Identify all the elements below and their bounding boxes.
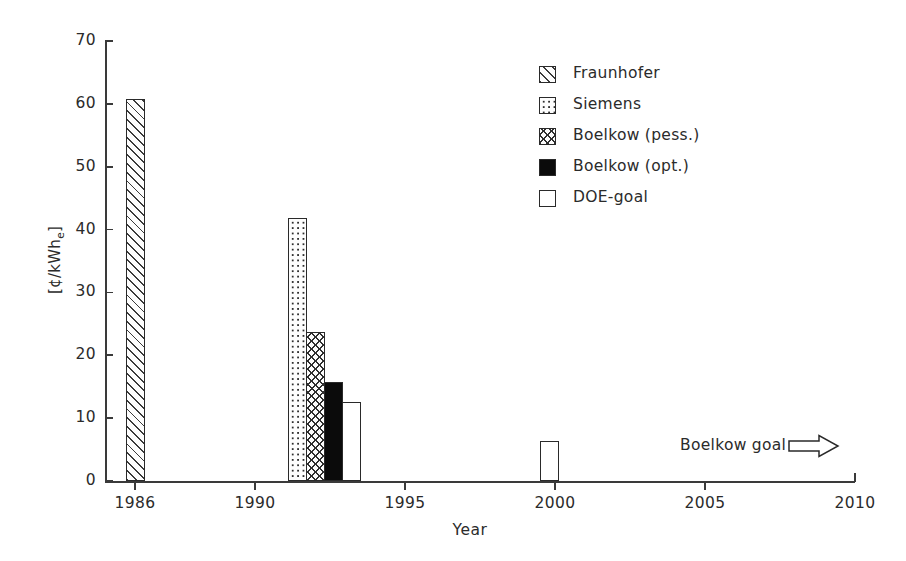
chart-canvas: 010203040506070 198619901995200020052010… — [0, 0, 906, 561]
x-tick-label: 2010 — [815, 494, 895, 512]
legend-label: DOE-goal — [573, 188, 648, 206]
bar-doe-goal-1993.2 — [342, 402, 361, 481]
legend-swatch-icon — [539, 97, 556, 114]
x-tick-label: 2000 — [515, 494, 595, 512]
legend-swatch-icon — [539, 66, 556, 83]
x-tick-mark — [554, 482, 556, 490]
y-axis-line — [105, 41, 107, 482]
y-tick-mark — [105, 40, 113, 42]
x-axis-title: Year — [430, 521, 510, 539]
legend-swatch-icon — [539, 190, 556, 207]
y-tick-label-text: 50 — [75, 157, 96, 175]
x-tick-label: 1986 — [95, 494, 175, 512]
legend-swatch-icon — [539, 159, 556, 176]
y-tick-mark — [105, 229, 113, 231]
legend-label: Boelkow (pess.) — [573, 126, 700, 144]
y-axis-title-prefix: [¢/kWh — [46, 239, 64, 294]
y-axis-title-suffix: ] — [46, 226, 64, 232]
y-tick-label-text: 10 — [75, 408, 96, 426]
y-tick-mark — [105, 480, 113, 482]
x-tick-mark — [254, 482, 256, 490]
x-axis-line — [105, 481, 855, 483]
y-tick-label-text: 40 — [75, 220, 96, 238]
x-tick-mark — [134, 482, 136, 490]
bar-boelkow-pess-1992 — [306, 332, 325, 481]
x-tick-mark — [854, 473, 856, 482]
y-tick-label-text: 60 — [75, 94, 96, 112]
y-tick-mark — [105, 292, 113, 294]
y-tick-mark — [105, 103, 113, 105]
y-tick-mark — [105, 417, 113, 419]
legend-label: Siemens — [573, 95, 641, 113]
y-axis-title-subscript: e — [54, 232, 66, 239]
y-tick-label-text: 30 — [75, 282, 96, 300]
right-arrow-icon — [788, 434, 840, 458]
x-tick-label: 2005 — [665, 494, 745, 512]
annotation-boelkow-goal: Boelkow goal — [680, 436, 786, 454]
y-tick-label-text: 0 — [86, 471, 96, 489]
x-tick-mark — [404, 482, 406, 490]
y-axis-title: [¢/kWhe] — [46, 200, 66, 320]
x-tick-label: 1995 — [365, 494, 445, 512]
legend-label: Fraunhofer — [573, 64, 660, 82]
legend-swatch-icon — [539, 128, 556, 145]
x-tick-mark — [704, 482, 706, 490]
x-tick-label: 1990 — [215, 494, 295, 512]
legend-label: Boelkow (opt.) — [573, 157, 689, 175]
y-tick-label-text: 70 — [75, 31, 96, 49]
y-tick-mark — [105, 166, 113, 168]
bar-doe-goal-1999.8 — [540, 441, 559, 481]
y-tick-label-text: 20 — [75, 345, 96, 363]
bar-boelkow-opt-1992.6 — [324, 382, 343, 481]
y-tick-mark — [105, 354, 113, 356]
bar-siemens-1991.4 — [288, 218, 307, 481]
bar-fraunhofer-1986 — [126, 99, 145, 481]
